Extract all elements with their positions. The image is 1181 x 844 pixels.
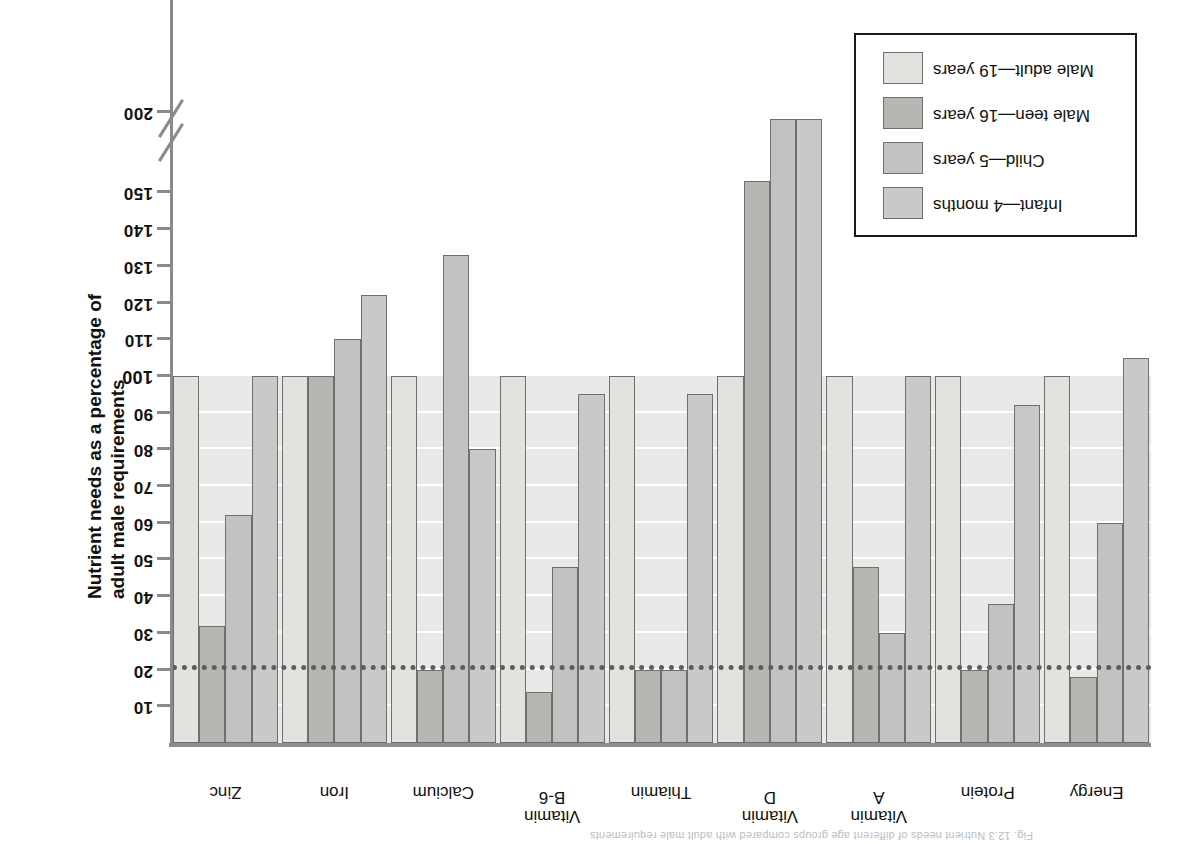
legend-item-3: Male adult—19 years xyxy=(867,48,1119,88)
bar-protein-series-1 xyxy=(988,604,1014,743)
legend-item-1: Child—5 years xyxy=(867,138,1119,178)
legend-swatch-1 xyxy=(883,142,923,174)
y-tick-40 xyxy=(157,594,170,597)
legend-swatch-3 xyxy=(883,52,923,84)
bar-vitamin-a-series-0 xyxy=(905,376,931,743)
bar-calcium-series-1 xyxy=(443,255,469,743)
y-tick-90 xyxy=(157,411,170,414)
bar-energy-series-1 xyxy=(1097,523,1123,743)
y-tick-30 xyxy=(157,631,170,634)
y-tick-label-90: 90 xyxy=(133,404,153,424)
bar-iron-series-0 xyxy=(361,295,387,743)
bar-zinc-series-3 xyxy=(173,376,199,743)
bar-vitamin-d-series-0 xyxy=(796,119,822,743)
legend-item-0: Infant—4 months xyxy=(867,183,1119,223)
y-tick-label-30: 30 xyxy=(133,624,153,644)
legend-item-2: Male teen—16 years xyxy=(867,93,1119,133)
y-tick-120 xyxy=(157,301,170,304)
legend-swatch-0 xyxy=(883,187,923,219)
bar-protein-series-0 xyxy=(1014,405,1040,743)
figure-caption: Fig. 12.3 Nutrient needs of different ag… xyxy=(473,824,1033,842)
plot-top-rule xyxy=(169,743,1151,747)
bar-thiamin-series-3 xyxy=(609,376,635,743)
y-tick-110 xyxy=(157,337,170,340)
bar-zinc-series-0 xyxy=(252,376,278,743)
bar-calcium-series-2 xyxy=(417,670,443,743)
bar-vitamin-b-6-series-2 xyxy=(526,692,552,743)
y-tick-130 xyxy=(157,264,170,267)
bar-vitamin-a-series-3 xyxy=(826,376,852,743)
y-tick-label-140: 140 xyxy=(123,220,153,240)
bar-iron-series-2 xyxy=(308,376,334,743)
bar-zinc-series-2 xyxy=(199,626,225,743)
category-label-vitamin-d: Vitamin D xyxy=(715,788,824,826)
bar-vitamin-b-6-series-1 xyxy=(552,567,578,743)
y-tick-label-70: 70 xyxy=(133,477,153,497)
bar-thiamin-series-0 xyxy=(687,394,713,743)
y-tick-label-80: 80 xyxy=(133,440,153,460)
bar-vitamin-d-series-1 xyxy=(770,119,796,743)
legend: Infant—4 monthsChild—5 yearsMale teen—16… xyxy=(854,33,1137,237)
y-tick-label-50: 50 xyxy=(133,551,153,571)
category-label-vitamin-b-6: Vitamin B-6 xyxy=(498,788,607,826)
y-tick-20 xyxy=(157,668,170,671)
bar-iron-series-3 xyxy=(282,376,308,743)
y-tick-label-200: 200 xyxy=(123,103,153,123)
legend-label-0: Infant—4 months xyxy=(933,195,1119,215)
bar-vitamin-b-6-series-0 xyxy=(578,394,604,743)
category-label-iron: Iron xyxy=(280,783,389,802)
y-tick-200 xyxy=(157,110,170,113)
y-tick-140 xyxy=(157,227,170,230)
category-label-vitamin-a: Vitamin A xyxy=(824,788,933,826)
legend-label-2: Male teen—16 years xyxy=(933,105,1119,125)
y-tick-label-150: 150 xyxy=(123,184,153,204)
y-tick-label-60: 60 xyxy=(133,514,153,534)
bar-vitamin-d-series-2 xyxy=(744,182,770,744)
category-label-zinc: Zinc xyxy=(171,783,280,802)
legend-label-3: Male adult—19 years xyxy=(933,60,1119,80)
y-tick-150 xyxy=(157,191,170,194)
category-label-thiamin: Thiamin xyxy=(607,783,716,802)
bar-protein-series-2 xyxy=(961,670,987,743)
bar-thiamin-series-1 xyxy=(661,670,687,743)
y-tick-label-10: 10 xyxy=(133,697,153,717)
bar-vitamin-b-6-series-3 xyxy=(500,376,526,743)
rotated-figure-wrapper: Fig. 12.3 Nutrient needs of different ag… xyxy=(0,0,1181,844)
y-tick-10 xyxy=(157,704,170,707)
y-tick-label-40: 40 xyxy=(133,587,153,607)
bar-vitamin-d-series-3 xyxy=(717,376,743,743)
bar-vitamin-a-series-2 xyxy=(853,567,879,743)
category-label-protein: Protein xyxy=(933,783,1042,802)
bar-calcium-series-3 xyxy=(391,376,417,743)
bar-vitamin-a-series-1 xyxy=(879,633,905,743)
y-axis-label: Nutrient needs as a percentage of adult … xyxy=(83,269,129,599)
y-tick-50 xyxy=(157,558,170,561)
category-label-energy: Energy xyxy=(1042,783,1151,802)
y-tick-80 xyxy=(157,447,170,450)
bar-protein-series-3 xyxy=(935,376,961,743)
y-tick-60 xyxy=(157,521,170,524)
legend-swatch-2 xyxy=(883,97,923,129)
category-label-calcium: Calcium xyxy=(389,783,498,802)
bar-thiamin-series-2 xyxy=(635,670,661,743)
bar-energy-series-3 xyxy=(1044,376,1070,743)
bar-iron-series-1 xyxy=(334,339,360,743)
y-tick-100 xyxy=(157,374,170,377)
bar-energy-series-0 xyxy=(1123,358,1149,743)
bar-energy-series-2 xyxy=(1070,677,1096,743)
bar-zinc-series-1 xyxy=(225,515,251,743)
legend-label-1: Child—5 years xyxy=(933,150,1119,170)
bar-calcium-series-0 xyxy=(469,449,495,743)
figure: Fig. 12.3 Nutrient needs of different ag… xyxy=(0,0,1181,844)
y-tick-70 xyxy=(157,484,170,487)
y-tick-label-20: 20 xyxy=(133,661,153,681)
reference-line-20 xyxy=(171,665,1151,670)
